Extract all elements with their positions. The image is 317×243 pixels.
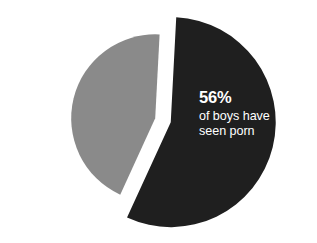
slice-label-line-1: of boys have (199, 109, 291, 124)
pie-slice-highlight (71, 34, 159, 194)
slice-label-line-2: seen porn (199, 124, 291, 139)
pie-chart: 56% of boys have seen porn (0, 0, 317, 243)
slice-annotation: 56% of boys have seen porn (199, 88, 291, 139)
slice-percent-value: 56% (199, 88, 291, 107)
